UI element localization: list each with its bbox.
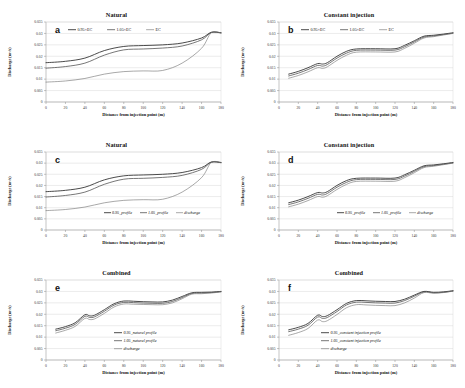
legend-label: 0.95×EC <box>311 27 326 32</box>
y-tick-label: 0.035 <box>34 20 42 24</box>
x-tick-label: 80 <box>354 234 358 238</box>
y-tick-label: 0.03 <box>36 290 43 294</box>
axis-lines <box>46 22 221 102</box>
x-tick-label: 100 <box>140 364 146 368</box>
y-tick-label: 0.025 <box>34 43 42 47</box>
x-axis-label: Distance from injection point (m) <box>102 370 165 375</box>
x-tick-label: 120 <box>160 106 166 110</box>
y-tick-label: 0.025 <box>34 301 42 305</box>
x-tick-label: 0 <box>278 234 280 238</box>
y-tick-label: 0.005 <box>267 89 275 93</box>
y-tick-label: 0.02 <box>36 184 43 188</box>
y-tick-label: 0 <box>41 100 43 104</box>
legend-label: 0.95×EC <box>78 27 93 32</box>
series-line <box>56 291 221 329</box>
x-tick-label: 160 <box>431 106 437 110</box>
x-axis-label: Distance from injection point (m) <box>335 370 398 375</box>
panel-a-plot: 00.0050.010.0150.020.0250.030.0350204060… <box>0 0 233 130</box>
legend-label: 1.05×EC <box>117 27 132 32</box>
figure-grid: Natural 00.0050.010.0150.020.0250.030.03… <box>0 0 465 388</box>
series-line <box>56 292 221 333</box>
y-tick-label: 0.005 <box>34 89 42 93</box>
legend-label: EC <box>389 27 395 32</box>
y-axis-label: Discharge (m³/s) <box>240 176 245 206</box>
x-tick-label: 160 <box>431 234 437 238</box>
x-tick-label: 40 <box>316 234 320 238</box>
panel-d-plot: 00.0050.010.0150.020.0250.030.0350204060… <box>233 130 465 258</box>
x-tick-label: 80 <box>122 106 126 110</box>
x-tick-label: 160 <box>199 106 205 110</box>
y-tick-label: 0.02 <box>269 313 276 317</box>
y-tick-label: 0.005 <box>267 347 275 351</box>
y-tick-label: 0.015 <box>267 324 275 328</box>
x-tick-label: 180 <box>450 106 456 110</box>
x-axis-label: Distance from injection point (m) <box>335 112 398 117</box>
legend-label: discharge <box>331 346 347 351</box>
legend-label: discharge <box>417 210 433 215</box>
x-tick-label: 100 <box>373 364 379 368</box>
y-tick-label: 0.005 <box>34 347 42 351</box>
panel-f-plot: 00.0050.010.0150.020.0250.030.0350204060… <box>233 258 465 388</box>
panel-b-plot: 00.0050.010.0150.020.0250.030.0350204060… <box>233 0 465 130</box>
panel-e: Combined 00.0050.010.0150.020.0250.030.0… <box>0 258 233 388</box>
y-tick-label: 0.035 <box>267 278 275 282</box>
x-tick-label: 60 <box>102 106 106 110</box>
y-tick-label: 0.035 <box>34 150 42 154</box>
x-tick-label: 180 <box>218 364 224 368</box>
legend-label: 1.05×EC <box>350 27 365 32</box>
y-tick-label: 0.025 <box>267 173 275 177</box>
x-tick-label: 40 <box>83 364 87 368</box>
x-tick-label: 120 <box>392 106 398 110</box>
axis-lines <box>279 152 453 230</box>
x-tick-label: 160 <box>199 364 205 368</box>
series-line <box>289 163 453 207</box>
x-tick-label: 20 <box>64 106 68 110</box>
legend-label: 0.95_constant injection profile <box>331 330 381 335</box>
x-tick-label: 120 <box>160 234 166 238</box>
x-axis-label: Distance from injection point (m) <box>102 240 165 245</box>
y-tick-label: 0.03 <box>36 161 43 165</box>
y-tick-label: 0.03 <box>36 32 43 36</box>
y-tick-label: 0.02 <box>36 55 43 59</box>
y-axis-label: Discharge (m³/s) <box>7 305 12 335</box>
legend-label: 0.95_profile <box>345 210 365 215</box>
x-tick-label: 100 <box>373 106 379 110</box>
y-axis-label: Discharge (m³/s) <box>7 176 12 206</box>
x-tick-label: 100 <box>373 234 379 238</box>
x-tick-label: 140 <box>412 234 418 238</box>
y-tick-label: 0.02 <box>269 55 276 59</box>
x-tick-label: 140 <box>412 364 418 368</box>
y-tick-label: 0.01 <box>269 335 276 339</box>
x-tick-label: 100 <box>140 106 146 110</box>
y-tick-label: 0.03 <box>269 290 276 294</box>
y-tick-label: 0 <box>274 358 276 362</box>
panel-c-plot: 00.0050.010.0150.020.0250.030.0350204060… <box>0 130 233 258</box>
panel-a: Natural 00.0050.010.0150.020.0250.030.03… <box>0 0 233 130</box>
y-tick-label: 0.015 <box>34 66 42 70</box>
legend-label: EC <box>156 27 162 32</box>
x-tick-label: 140 <box>179 106 185 110</box>
x-tick-label: 60 <box>102 364 106 368</box>
legend-label: 1.05_constant injection profile <box>331 338 381 343</box>
x-tick-label: 160 <box>431 364 437 368</box>
axis-lines <box>279 22 453 102</box>
x-tick-label: 40 <box>316 106 320 110</box>
x-tick-label: 180 <box>218 106 224 110</box>
y-tick-label: 0.01 <box>269 77 276 81</box>
x-tick-label: 80 <box>122 234 126 238</box>
series-line <box>46 32 221 82</box>
x-tick-label: 0 <box>278 106 280 110</box>
y-tick-label: 0.02 <box>269 184 276 188</box>
x-tick-label: 140 <box>179 364 185 368</box>
y-tick-label: 0.035 <box>34 278 42 282</box>
y-tick-label: 0.005 <box>34 217 42 221</box>
y-tick-label: 0.02 <box>36 313 43 317</box>
y-tick-label: 0.015 <box>34 324 42 328</box>
panel-b: Constant injection 00.0050.010.0150.020.… <box>233 0 465 130</box>
panel-letter: c <box>55 155 60 165</box>
x-tick-label: 60 <box>102 234 106 238</box>
axis-lines <box>46 152 221 230</box>
x-axis-label: Distance from injection point (m) <box>102 112 165 117</box>
x-tick-label: 80 <box>354 364 358 368</box>
y-tick-label: 0 <box>274 100 276 104</box>
